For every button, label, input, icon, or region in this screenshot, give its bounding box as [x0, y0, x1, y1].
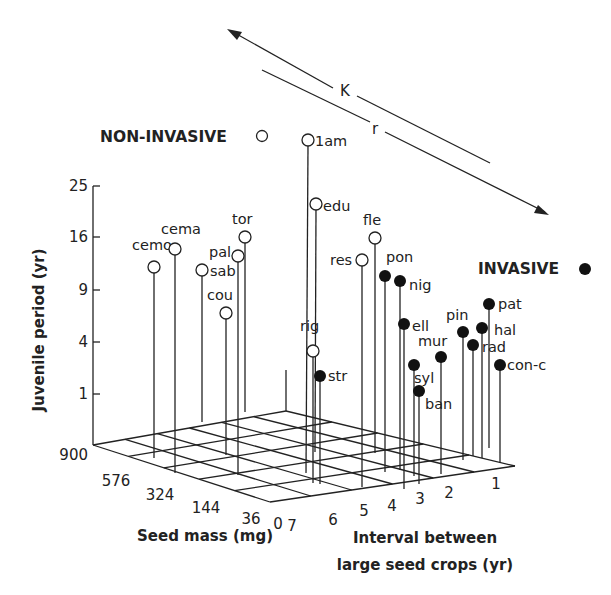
filled-circle-marker-icon [314, 370, 326, 382]
open-circle-marker-icon [310, 198, 322, 210]
mass-tick-label: 324 [146, 486, 175, 504]
species-label: 1am [315, 133, 347, 149]
species-label: ban [425, 396, 452, 412]
mass-tick-label: 36 [241, 510, 260, 528]
stem-cou: cou [207, 287, 233, 455]
open-circle-marker-icon [307, 345, 319, 357]
filled-circle-marker-icon [435, 351, 447, 363]
filled-circle-marker-icon [476, 322, 488, 334]
open-circle-marker-icon [369, 232, 381, 244]
3d-stem-chart: 25169419005763241443607654321 cemocemasa… [0, 0, 611, 595]
z-tick-label: 4 [78, 333, 88, 351]
open-circle-legend-icon [257, 131, 268, 142]
species-label: res [330, 252, 352, 268]
mass-tick-label: 0 [273, 515, 283, 533]
species-label: nig [409, 277, 431, 293]
stem-1am: 1am [302, 133, 347, 473]
stem-fle: fle [363, 212, 381, 453]
z-tick-label: 9 [78, 281, 88, 299]
interval-tick-label: 4 [387, 497, 397, 515]
filled-circle-marker-icon [494, 359, 506, 371]
species-label: pin [446, 307, 468, 323]
species-label: edu [323, 198, 350, 214]
stem-line [306, 146, 308, 473]
stem-pin: pin [446, 307, 469, 460]
open-circle-marker-icon [356, 254, 368, 266]
interval-tick-label: 7 [287, 517, 297, 535]
legend-noninvasive-label: NON-INVASIVE [100, 128, 227, 146]
z-tick-label: 25 [69, 177, 88, 195]
interval-tick-label: 5 [359, 502, 369, 520]
species-label: hal [494, 322, 516, 338]
r-arrow-line-right [385, 132, 545, 212]
stems: cemocemasabpaltorcou1amedurigresflestrpo… [132, 133, 546, 489]
arrowhead-down-right-icon [534, 205, 549, 215]
filled-circle-marker-icon [483, 298, 495, 310]
mass-tick-label: 900 [59, 446, 88, 464]
mass-tick-label: 576 [102, 472, 131, 490]
species-label: ell [412, 318, 429, 334]
filled-circle-marker-icon [467, 339, 479, 351]
interval-tick-label: 1 [491, 475, 501, 493]
species-label: pat [498, 296, 522, 312]
species-label: rad [482, 339, 506, 355]
species-label: cou [207, 287, 233, 303]
mass-tick-label: 144 [192, 499, 221, 517]
filled-circle-marker-icon [457, 326, 469, 338]
filled-circle-marker-icon [379, 270, 391, 282]
stem-tor: tor [232, 211, 253, 412]
tick-labels: 25169419005763241443607654321 [59, 177, 500, 535]
y-axis-title-line2: large seed crops (yr) [337, 556, 513, 574]
species-label: fle [363, 212, 381, 228]
species-label: syl [414, 370, 434, 386]
species-label: rig [300, 318, 319, 334]
open-circle-marker-icon [196, 264, 208, 276]
stem-con-c: con-c [494, 357, 546, 463]
stem-ban: ban [413, 385, 452, 484]
grid-line-interval [222, 422, 434, 478]
z-tick-label: 16 [69, 228, 88, 246]
species-label: str [328, 368, 347, 384]
open-circle-marker-icon [169, 243, 181, 255]
arrowhead-up-left-icon [227, 29, 242, 40]
stem-rig: rig [300, 318, 319, 483]
k-r-gradient-arrows [227, 29, 549, 215]
legend-invasive-label: INVASIVE [478, 260, 559, 278]
z-tick-label: 1 [78, 385, 88, 403]
r-label: r [372, 120, 379, 138]
species-label: pon [386, 249, 413, 265]
species-label: cema [161, 221, 201, 237]
open-circle-marker-icon [239, 231, 251, 243]
species-label: con-c [507, 357, 546, 373]
filled-circle-marker-icon [398, 318, 410, 330]
z-axis-title: Juvenile period (yr) [30, 248, 48, 412]
interval-tick-label: 2 [444, 484, 454, 502]
stem-cema: cema [161, 221, 201, 473]
species-label: tor [232, 211, 253, 227]
open-circle-marker-icon [148, 261, 160, 273]
species-label: pal [209, 244, 231, 260]
y-axis-title-line1: Interval between [353, 529, 497, 547]
interval-tick-label: 3 [415, 490, 425, 508]
species-label: sab [210, 263, 236, 279]
open-circle-marker-icon [220, 307, 232, 319]
interval-tick-label: 6 [328, 511, 338, 529]
filled-circle-marker-icon [413, 385, 425, 397]
species-label: mur [418, 333, 447, 349]
open-circle-marker-icon [232, 250, 244, 262]
species-label: cemo [132, 237, 172, 253]
filled-circle-marker-icon [394, 275, 406, 287]
open-circle-marker-icon [302, 134, 314, 146]
x-axis-title: Seed mass (mg) [137, 527, 273, 545]
k-label: K [340, 82, 351, 100]
filled-circle-legend-icon [579, 263, 591, 275]
stem-cemo: cemo [132, 237, 172, 458]
